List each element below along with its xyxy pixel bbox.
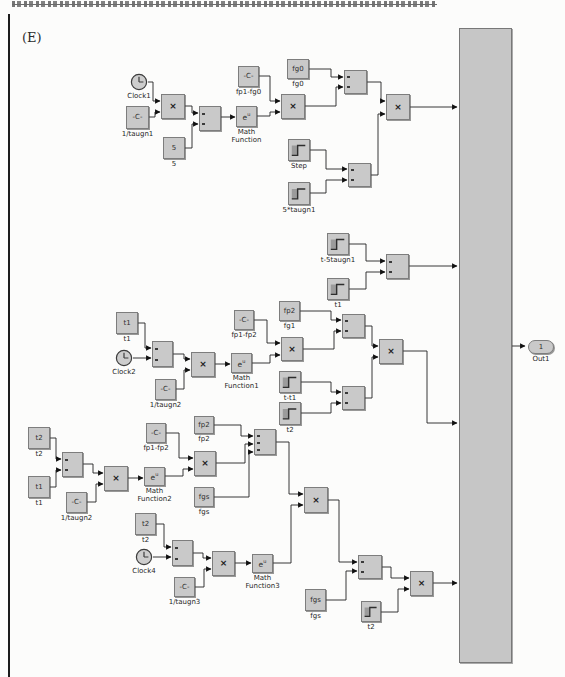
wire-30 (403, 351, 457, 423)
block-step (288, 139, 310, 161)
wire-51 (195, 569, 211, 587)
step-icon (329, 235, 347, 253)
wire-3 (185, 124, 198, 148)
block-const-1-taugn2-b: -C- (66, 492, 87, 513)
outport-value: 1 (539, 344, 543, 351)
block-product2: × (281, 94, 305, 119)
product-value: × (394, 103, 402, 112)
wire-11 (310, 180, 347, 193)
sum-input-mark (347, 86, 350, 88)
block-step-t-t1 (279, 371, 301, 393)
block-step-5taugn1 (288, 182, 310, 205)
sum-input-mark (257, 442, 260, 444)
sum-input-mark (257, 435, 260, 437)
product-value: × (112, 474, 120, 483)
const-value: fg0 (292, 66, 303, 73)
block-sum11 (172, 540, 193, 566)
const-value: fp2 (284, 308, 295, 315)
sum-input-mark (345, 330, 348, 332)
wire-29 (365, 357, 378, 398)
const-value: t1 (35, 484, 42, 491)
block-const-t2-a: t2 (28, 427, 50, 449)
block-sum2 (344, 70, 367, 94)
block-sum9 (254, 429, 276, 455)
block-step-t1 (327, 278, 349, 300)
block-step-t2-b (361, 601, 381, 622)
block-const-t1-b: t1 (28, 476, 50, 498)
wire-27 (301, 382, 341, 392)
block-product11: × (410, 571, 433, 596)
block-product6: × (379, 339, 403, 364)
const-value: -C- (239, 317, 249, 324)
sum-input-mark (389, 271, 392, 273)
sum-input-mark (65, 469, 68, 471)
wire-0 (148, 82, 160, 101)
wire-45 (382, 567, 409, 578)
block-product1: × (161, 94, 185, 119)
exp-function-icon: eu (243, 112, 251, 121)
exp-exponent: u (242, 358, 245, 364)
wire-46 (381, 589, 409, 612)
product-value: × (312, 496, 320, 505)
step-icon (281, 373, 299, 391)
product-value: × (201, 459, 209, 468)
scanned-page: (E) Clock1-C-1/taugn1×55euMath Function-… (0, 0, 565, 677)
step-icon (329, 280, 347, 298)
clock-icon (115, 349, 133, 367)
const-value: -C- (72, 499, 82, 506)
sum-input-mark (347, 76, 350, 78)
const-value: fgs (199, 494, 210, 501)
block-math-function3: eu (252, 554, 273, 573)
const-value: -C- (151, 430, 161, 437)
wire-2 (185, 106, 198, 113)
wire-31 (50, 438, 61, 459)
wire-48 (156, 524, 171, 547)
block-sum3 (348, 163, 371, 187)
wire-37 (165, 469, 193, 476)
wire-42 (273, 505, 303, 563)
block-product7: × (104, 466, 128, 491)
const-value: 5 (172, 145, 176, 152)
block-sum10 (358, 555, 382, 579)
const-value: -C- (180, 584, 190, 591)
block-sum1 (199, 106, 221, 131)
sum-input-mark (389, 261, 392, 263)
const-value: -C- (161, 386, 171, 393)
sum-input-mark (345, 402, 348, 404)
sum-input-mark (345, 392, 348, 394)
sum-input-mark (361, 571, 364, 573)
wire-17 (138, 323, 151, 348)
step-icon (290, 184, 308, 203)
product-value: × (220, 559, 228, 568)
block-step-t-5taugn1 (327, 233, 349, 255)
exp-exponent: u (263, 558, 266, 564)
block-const-fg0: fg0 (287, 59, 309, 79)
wire-32 (50, 470, 61, 487)
block-math-function1: eu (231, 353, 252, 373)
step-icon (281, 404, 299, 423)
const-value: t2 (35, 435, 42, 442)
wire-22 (254, 320, 280, 343)
sum-input-mark (351, 179, 354, 181)
block-sum-main (459, 28, 512, 663)
wire-38 (214, 425, 253, 436)
product-value: × (418, 579, 426, 588)
const-value: -C- (244, 73, 254, 80)
wire-39 (216, 444, 253, 463)
step-icon (363, 603, 379, 620)
block-product9: × (304, 487, 328, 513)
block-math-function2: eu (144, 467, 165, 486)
sum-input-mark (155, 359, 158, 361)
sum-input-mark (257, 449, 260, 451)
exp-exponent: u (247, 111, 250, 117)
block-product3: × (386, 94, 410, 120)
wire-50 (193, 553, 211, 558)
wire-19 (173, 354, 190, 359)
wire-40 (214, 452, 253, 497)
const-value: fgs (310, 597, 321, 604)
exp-function-icon: eu (238, 359, 246, 368)
block-product5: × (281, 337, 303, 361)
sum-input-mark (202, 123, 205, 125)
wire-1 (149, 112, 160, 117)
product-value: × (199, 360, 207, 369)
